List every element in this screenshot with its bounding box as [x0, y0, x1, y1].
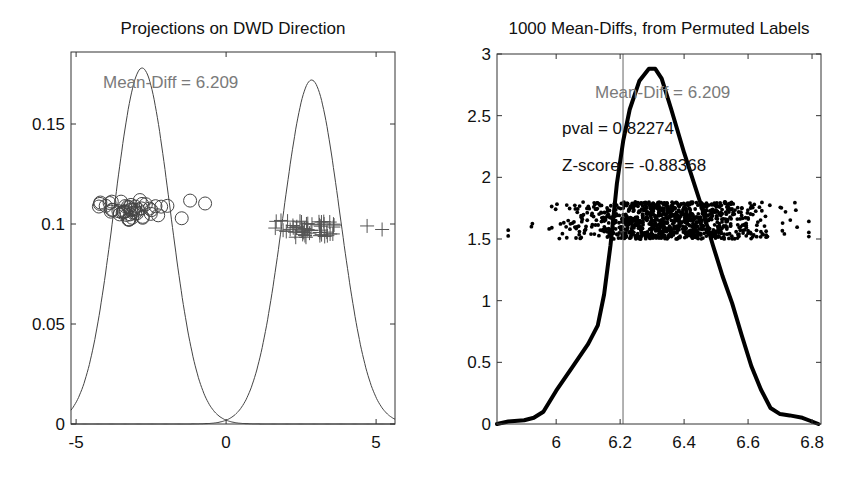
x-tick-label: -5 [69, 433, 84, 452]
x-tick-label: 6.8 [800, 433, 824, 452]
y-tick-label: 1.5 [467, 230, 491, 249]
zscore-annotation: Z-score = -0.88368 [562, 156, 706, 175]
right-meandiff-annotation: Mean-Diff = 6.209 [595, 83, 730, 102]
y-tick-label: 0.05 [32, 315, 65, 334]
y-tick-label: 1 [482, 292, 491, 311]
class-1-density [71, 68, 395, 424]
left-ticks: -50500.050.10.15 [32, 52, 395, 452]
y-tick-label: 0.15 [32, 115, 65, 134]
right-title: 1000 Mean-Diffs, from Permuted Labels [508, 19, 809, 38]
x-tick-label: 5 [371, 433, 380, 452]
class-2-density [71, 80, 395, 424]
figure: Projections on DWD Direction -50500.050.… [0, 0, 846, 484]
left-axes-frame [71, 52, 395, 424]
left-title: Projections on DWD Direction [121, 19, 346, 38]
left-density-curves [71, 68, 395, 424]
x-tick-label: 6.4 [672, 433, 696, 452]
x-tick-label: 6 [551, 433, 560, 452]
y-tick-label: 0 [56, 415, 65, 434]
left-scatter-points [92, 194, 389, 245]
x-tick-label: 6.2 [608, 433, 632, 452]
left-panel: Projections on DWD Direction -50500.050.… [32, 19, 395, 452]
y-tick-label: 0.5 [467, 353, 491, 372]
y-tick-label: 2.5 [467, 107, 491, 126]
right-panel: 1000 Mean-Diffs, from Permuted Labels 66… [467, 19, 824, 452]
y-tick-label: 0.1 [41, 215, 65, 234]
y-tick-label: 2 [482, 168, 491, 187]
x-tick-label: 6.6 [736, 433, 760, 452]
left-meandiff-annotation: Mean-Diff = 6.209 [103, 73, 238, 92]
x-tick-label: 0 [221, 433, 230, 452]
right-scatter-points [506, 200, 810, 241]
y-tick-label: 0 [482, 415, 491, 434]
pval-annotation: pval = 0.82274 [562, 119, 674, 138]
right-ticks: 66.26.46.66.800.511.522.53 [467, 45, 824, 452]
y-tick-label: 3 [482, 45, 491, 64]
